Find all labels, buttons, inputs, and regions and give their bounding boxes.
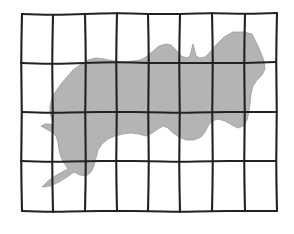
- grid-vertical-line-0: [21, 14, 22, 211]
- grid-horizontal-line-4: [22, 211, 277, 212]
- grid-vertical-line-4: [148, 14, 149, 211]
- grid-vertical-line-2: [85, 14, 86, 211]
- grid-horizontal-line-2: [22, 112, 277, 113]
- grid-vertical-line-1: [52, 15, 53, 212]
- grid-vertical-line-6: [212, 13, 213, 211]
- grid-vertical-line-5: [179, 14, 180, 212]
- grid-vertical-line-7: [244, 14, 245, 211]
- grid-vertical-line-8: [276, 13, 277, 211]
- figure-container: Irregular shaded region overlaid with a …: [0, 0, 294, 234]
- grid-region-figure: [0, 0, 294, 234]
- grid-vertical-line-3: [116, 13, 117, 211]
